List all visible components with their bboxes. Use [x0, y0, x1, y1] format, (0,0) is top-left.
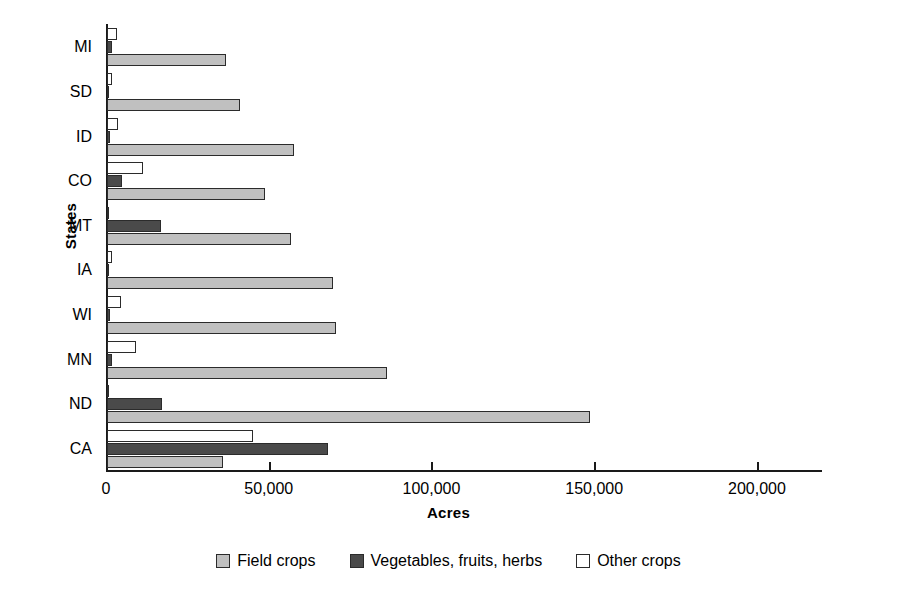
legend-label: Field crops [237, 552, 315, 570]
y-axis-label-nd: ND [36, 395, 92, 413]
x-axis-tick-label: 50,000 [209, 480, 329, 498]
x-axis-title: Acres [0, 504, 897, 521]
legend-item-1[interactable]: Vegetables, fruits, herbs [350, 552, 543, 570]
bar-mt-other [107, 207, 109, 219]
bar-mn-other [107, 341, 136, 353]
legend-label: Vegetables, fruits, herbs [371, 552, 543, 570]
legend-swatch-icon [576, 554, 590, 568]
y-axis-label-ca: CA [36, 440, 92, 458]
bar-wi-field [107, 322, 336, 334]
bar-ca-veg [107, 443, 328, 455]
bar-co-veg [107, 175, 122, 187]
bar-mt-field [107, 233, 291, 245]
bar-nd-field [107, 411, 590, 423]
y-axis-label-ia: IA [36, 261, 92, 279]
x-axis-tick [757, 462, 759, 472]
y-axis-label-mi: MI [36, 38, 92, 56]
x-axis-line [106, 470, 822, 472]
bar-chart: States 050,000100,000150,000200,000MISDI… [0, 0, 897, 614]
bar-sd-field [107, 99, 240, 111]
chart-legend: Field cropsVegetables, fruits, herbsOthe… [0, 552, 897, 570]
bar-co-field [107, 188, 265, 200]
bar-mn-field [107, 367, 387, 379]
bar-id-field [107, 144, 294, 156]
bar-mn-veg [107, 354, 112, 366]
x-axis-tick-label: 200,000 [697, 480, 817, 498]
bar-ia-field [107, 277, 333, 289]
x-axis-tick-label: 100,000 [371, 480, 491, 498]
bar-mi-other [107, 28, 117, 40]
bar-nd-other [107, 385, 109, 397]
bar-ia-veg [107, 264, 109, 276]
bar-nd-veg [107, 398, 162, 410]
bar-sd-other [107, 73, 112, 85]
y-axis-label-id: ID [36, 128, 92, 146]
y-axis-label-co: CO [36, 172, 92, 190]
x-axis-tick [594, 462, 596, 472]
bar-co-other [107, 162, 143, 174]
bar-sd-veg [107, 86, 109, 98]
x-axis-tick-label: 150,000 [534, 480, 654, 498]
x-axis-tick [431, 462, 433, 472]
y-axis-label-sd: SD [36, 83, 92, 101]
plot-area: 050,000100,000150,000200,000MISDIDCOMTIA… [106, 24, 822, 470]
bar-wi-other [107, 296, 121, 308]
bar-mi-veg [107, 41, 112, 53]
legend-item-2[interactable]: Other crops [576, 552, 681, 570]
bar-mi-field [107, 54, 226, 66]
bar-id-other [107, 118, 118, 130]
bar-ia-other [107, 251, 112, 263]
legend-item-0[interactable]: Field crops [216, 552, 315, 570]
legend-label: Other crops [597, 552, 681, 570]
x-axis-tick [269, 462, 271, 472]
bar-wi-veg [107, 309, 110, 321]
bar-ca-field [107, 456, 223, 468]
y-axis-label-mn: MN [36, 351, 92, 369]
y-axis-label-mt: MT [36, 217, 92, 235]
bar-id-veg [107, 131, 110, 143]
bar-mt-veg [107, 220, 161, 232]
x-axis-tick-label: 0 [46, 480, 166, 498]
legend-swatch-icon [216, 554, 230, 568]
y-axis-label-wi: WI [36, 306, 92, 324]
legend-swatch-icon [350, 554, 364, 568]
bar-ca-other [107, 430, 253, 442]
